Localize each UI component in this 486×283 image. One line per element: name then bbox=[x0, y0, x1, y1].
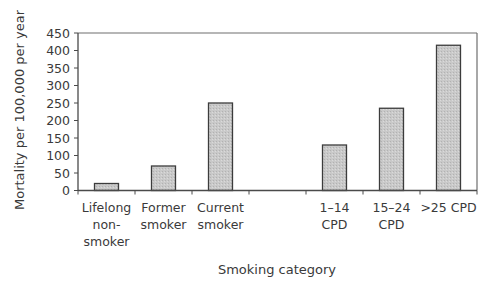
x-category-label: 15–24 bbox=[372, 200, 410, 215]
y-tick-label: 0 bbox=[62, 183, 70, 198]
bar bbox=[95, 184, 119, 191]
x-category-label: smoker bbox=[84, 234, 131, 249]
y-tick-label: 100 bbox=[46, 148, 70, 163]
bars bbox=[95, 45, 461, 190]
y-tick-label: 450 bbox=[46, 26, 70, 41]
x-category-label: smoker bbox=[141, 217, 188, 232]
x-category-label: non- bbox=[92, 217, 120, 232]
bar bbox=[437, 45, 461, 190]
y-tick-label: 350 bbox=[46, 61, 70, 76]
x-axis: Lifelongnon-smokerFormersmokerCurrentsmo… bbox=[78, 191, 477, 249]
y-axis-title: Mortality per 100,000 per year bbox=[12, 9, 27, 210]
x-category-label: 1–14 bbox=[319, 200, 349, 215]
x-category-label: Current bbox=[197, 200, 244, 215]
bar bbox=[323, 145, 347, 191]
x-category-label: >25 CPD bbox=[420, 200, 476, 215]
y-axis: 050100150200250300350400450 bbox=[46, 26, 78, 199]
y-tick-label: 50 bbox=[54, 166, 70, 181]
x-category-label: CPD bbox=[379, 217, 405, 232]
x-axis-title: Smoking category bbox=[218, 262, 336, 277]
plot-frame bbox=[78, 33, 477, 191]
x-category-label: Former bbox=[141, 200, 186, 215]
x-category-label: Lifelong bbox=[82, 200, 132, 215]
mortality-bar-chart: 050100150200250300350400450 Lifelongnon-… bbox=[0, 0, 486, 283]
bar bbox=[152, 166, 176, 191]
y-tick-label: 400 bbox=[46, 43, 70, 58]
bar bbox=[209, 103, 233, 191]
y-tick-label: 300 bbox=[46, 78, 70, 93]
y-tick-label: 250 bbox=[46, 96, 70, 111]
bar bbox=[380, 108, 404, 190]
x-category-label: smoker bbox=[198, 217, 245, 232]
y-tick-label: 200 bbox=[46, 113, 70, 128]
x-category-label: CPD bbox=[322, 217, 348, 232]
y-tick-label: 150 bbox=[46, 131, 70, 146]
